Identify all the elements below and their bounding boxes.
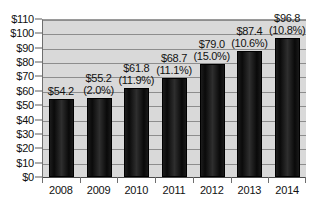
x-axis-tick-mark: [305, 177, 306, 183]
bar[interactable]: [275, 38, 300, 177]
bar-slot: [156, 20, 194, 177]
bar[interactable]: [49, 99, 74, 177]
bar-slot: [43, 20, 81, 177]
y-axis-tick-mark: [35, 76, 42, 77]
bar-slot: [193, 20, 231, 177]
bar-slot: [268, 20, 306, 177]
y-axis-tick-mark: [35, 148, 42, 149]
x-axis-category-label: 2009: [80, 184, 118, 204]
y-axis-tick-mark: [35, 33, 42, 34]
y-axis-tick-mark: [35, 119, 42, 120]
bar[interactable]: [162, 78, 187, 177]
x-axis-category-label: 2011: [155, 184, 193, 204]
bar[interactable]: [124, 88, 149, 177]
x-axis-tick-mark: [231, 177, 232, 183]
y-axis-tick-label: $10: [16, 157, 34, 169]
bar[interactable]: [87, 98, 112, 177]
bars-layer: [43, 20, 306, 177]
y-axis: $110$100$90$80$70$60$50$40$30$20$10$0: [0, 0, 42, 207]
y-axis-tick-label: $70: [16, 70, 34, 82]
bar[interactable]: [200, 64, 225, 177]
x-axis-ticks: [42, 177, 306, 183]
bar-slot: [231, 20, 269, 177]
y-axis-tick-label: $90: [16, 42, 34, 54]
bar[interactable]: [237, 51, 262, 177]
y-axis-tick-mark: [35, 90, 42, 91]
y-axis-tick-label: $60: [16, 85, 34, 97]
bar-slot: [81, 20, 119, 177]
x-axis-category-label: 2013: [231, 184, 269, 204]
y-axis-tick-mark: [35, 177, 42, 178]
bar-slot: [118, 20, 156, 177]
x-axis-tick-mark: [42, 177, 43, 183]
x-axis-tick-mark: [117, 177, 118, 183]
x-axis-category-label: 2014: [268, 184, 306, 204]
bar-chart: $110$100$90$80$70$60$50$40$30$20$10$0 $5…: [0, 0, 315, 207]
y-axis-tick-label: $20: [16, 142, 34, 154]
y-axis-tick-label: $40: [16, 114, 34, 126]
x-axis-tick-mark: [80, 177, 81, 183]
x-axis-category-label: 2012: [193, 184, 231, 204]
x-axis-category-label: 2008: [42, 184, 80, 204]
plot-area: [42, 19, 306, 177]
y-axis-tick-label: $100: [10, 27, 34, 39]
y-axis-tick-mark: [35, 47, 42, 48]
y-axis-tick-label: $110: [11, 13, 34, 25]
x-axis-category-label: 2010: [117, 184, 155, 204]
y-axis-tick-label: $50: [16, 99, 34, 111]
y-axis-tick-label: $80: [16, 56, 34, 68]
y-axis-tick-mark: [35, 62, 42, 63]
y-axis-tick-label: $30: [16, 128, 34, 140]
y-axis-tick-mark: [35, 105, 42, 106]
y-axis-tick-mark: [35, 133, 42, 134]
x-axis-labels: 2008200920102011201220132014: [42, 184, 306, 204]
y-axis-tick-mark: [35, 19, 42, 20]
x-axis-tick-mark: [155, 177, 156, 183]
x-axis-tick-mark: [268, 177, 269, 183]
y-axis-tick-mark: [35, 162, 42, 163]
y-axis-tick-label: $0: [22, 171, 34, 183]
x-axis-tick-mark: [193, 177, 194, 183]
